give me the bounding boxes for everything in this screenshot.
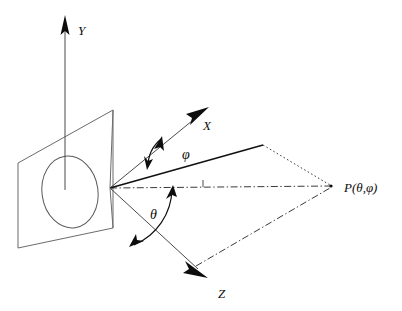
point-p-label: P(θ,φ) <box>343 180 377 195</box>
z-axis-line <box>110 188 198 269</box>
point-p-marker <box>329 184 332 187</box>
z-axis-arrowhead <box>183 261 208 278</box>
phi-arc-arrowhead-upper <box>154 136 164 151</box>
ground-projection-line <box>196 188 330 266</box>
theta-angle-label: θ <box>150 207 157 222</box>
horizontal-reference-axis <box>110 186 331 188</box>
diagram-canvas: Y X Z φ θ P(θ,φ) <box>0 0 402 311</box>
radial-ray-dotted <box>263 145 330 185</box>
y-axis-label: Y <box>78 23 87 38</box>
z-axis-label: Z <box>218 286 226 301</box>
beam-ellipse <box>37 152 102 231</box>
x-axis-label: X <box>202 118 212 133</box>
phi-angle-label: φ <box>182 147 190 162</box>
spherical-coordinate-diagram: Y X Z φ θ P(θ,φ) <box>0 0 402 311</box>
